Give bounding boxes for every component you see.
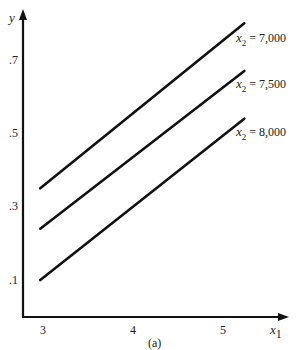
series-label-7500: x2 = 7,500 [235, 76, 286, 94]
x-tick: 5 [220, 323, 226, 337]
y-tick: .5 [9, 126, 18, 140]
y-tick: .7 [9, 53, 18, 67]
chart: y .7 .5 .3 .1 3 4 5 x1 (a) x2 = 7,000 x2… [0, 0, 298, 350]
series-line-1 [40, 71, 244, 229]
x-axis-label: x1 [269, 322, 282, 341]
x-axis-arrow-icon [278, 313, 289, 321]
series-line-2 [40, 119, 244, 280]
series-line-0 [40, 23, 244, 188]
y-axis-label: y [7, 10, 15, 25]
x-tick: 4 [130, 323, 136, 337]
series-label-8000: x2 = 8,000 [235, 124, 286, 142]
figure-caption: (a) [148, 336, 161, 350]
x-tick: 3 [40, 323, 46, 337]
y-tick: .1 [9, 273, 18, 287]
y-tick: .3 [9, 199, 18, 213]
series-label-7000: x2 = 7,000 [235, 30, 286, 48]
series-lines [40, 23, 244, 280]
y-axis-arrow-icon [19, 9, 27, 20]
